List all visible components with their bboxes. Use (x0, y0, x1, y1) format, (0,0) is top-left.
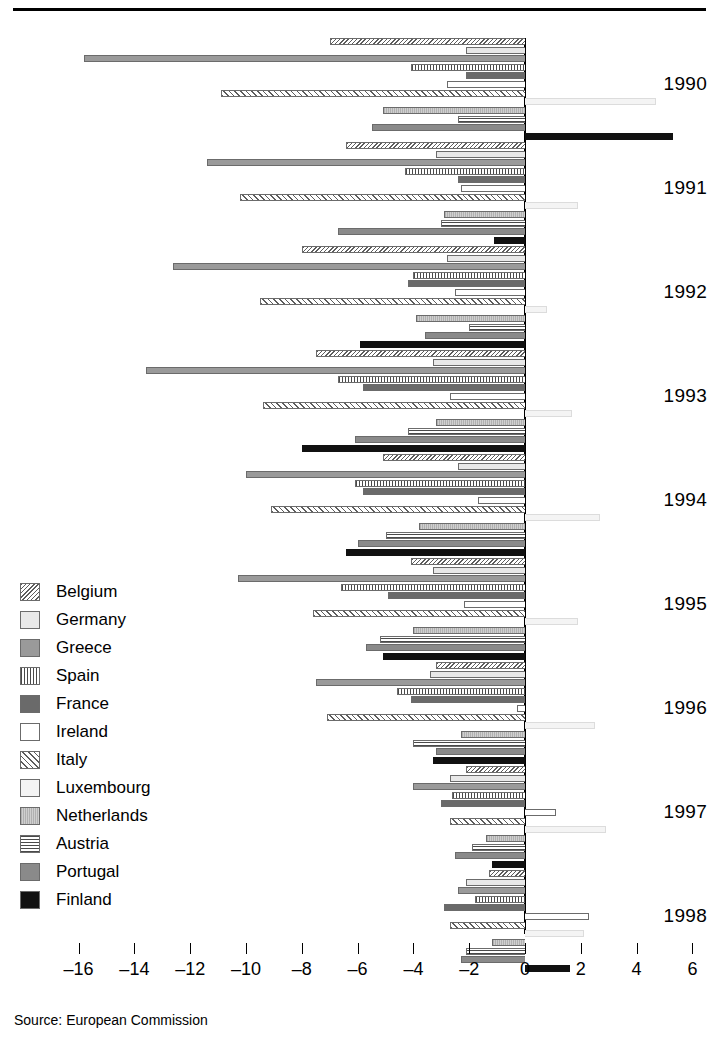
bar-ie-1996 (517, 705, 525, 712)
legend-item-lu[interactable]: Luxembourg (20, 774, 250, 802)
bar-ie-1991 (461, 185, 525, 192)
bar-es-1995 (341, 584, 525, 591)
x-tick--2 (469, 943, 470, 954)
grey-solid-swatch-icon (20, 863, 40, 881)
x-tick-label--8: –8 (292, 959, 312, 980)
bar-de-1991 (436, 151, 525, 158)
source-note: Source: European Commission (14, 1012, 208, 1028)
bar-at-1995 (380, 636, 525, 643)
bar-gr-1992 (173, 263, 525, 270)
x-tick-label--14: –14 (119, 959, 149, 980)
government-deficit-bar-chart: 199019911992199319941995199619971998 Bel… (0, 0, 719, 1048)
legend-item-label: Finland (56, 890, 112, 910)
bar-nl-1995 (413, 627, 525, 634)
bar-fr-1990 (466, 72, 525, 79)
bar-it-1993 (263, 402, 525, 409)
bar-it-1994 (271, 506, 525, 513)
legend-item-at[interactable]: Austria (20, 830, 250, 858)
bar-ie-1993 (450, 393, 525, 400)
bar-es-1994 (355, 480, 525, 487)
bar-es-1998 (475, 896, 525, 903)
bar-de-1993 (433, 359, 525, 366)
legend-item-fr[interactable]: France (20, 690, 250, 718)
bar-lu-1993 (525, 410, 572, 417)
bar-lu-1990 (525, 98, 656, 105)
legend-item-es[interactable]: Spain (20, 662, 250, 690)
x-tick--14 (134, 943, 135, 954)
bar-es-1990 (411, 64, 525, 71)
x-tick--6 (358, 943, 359, 954)
legend-item-label: Spain (56, 666, 99, 686)
legend-item-pt[interactable]: Portugal (20, 858, 250, 886)
bar-gr-1990 (84, 55, 525, 62)
legend-item-label: Portugal (56, 862, 119, 882)
title-rule (13, 8, 706, 11)
bar-pt-1995 (366, 644, 525, 651)
diagonal-hatch-forward-swatch-icon (20, 751, 40, 769)
year-label-1992: 1992 (664, 281, 707, 303)
bar-fr-1994 (363, 488, 525, 495)
legend-item-gr[interactable]: Greece (20, 634, 250, 662)
bar-lu-1995 (525, 618, 578, 625)
bar-fi-1997 (492, 861, 525, 868)
bar-be-1992 (302, 246, 525, 253)
x-tick--16 (79, 943, 80, 954)
dark-grey-solid-swatch-icon (20, 695, 40, 713)
bar-gr-1991 (207, 159, 525, 166)
legend: BelgiumGermanyGreeceSpainFranceIrelandIt… (20, 578, 250, 914)
bar-de-1990 (466, 47, 525, 54)
legend-item-label: Luxembourg (56, 778, 151, 798)
x-tick-label-2: 2 (576, 959, 586, 980)
legend-item-nl[interactable]: Netherlands (20, 802, 250, 830)
bar-lu-1996 (525, 722, 595, 729)
bar-fr-1997 (441, 800, 525, 807)
bar-nl-1996 (461, 731, 525, 738)
bar-at-1997 (472, 844, 525, 851)
x-axis: –16–14–12–10–8–6–4–20246 (0, 943, 719, 993)
bar-fr-1993 (363, 384, 525, 391)
x-tick--10 (246, 943, 247, 954)
bar-pt-1991 (338, 228, 525, 235)
x-tick-2 (581, 943, 582, 954)
bar-ie-1997 (525, 809, 556, 816)
bar-de-1996 (430, 671, 525, 678)
bar-it-1995 (313, 610, 525, 617)
legend-item-label: Germany (56, 610, 126, 630)
bar-it-1997 (450, 818, 525, 825)
horizontal-lines-swatch-icon (20, 835, 40, 853)
bar-es-1991 (405, 168, 525, 175)
x-tick-label--6: –6 (348, 959, 368, 980)
bar-be-1996 (436, 662, 525, 669)
legend-item-it[interactable]: Italy (20, 746, 250, 774)
x-tick--4 (413, 943, 414, 954)
year-label-1996: 1996 (664, 697, 707, 719)
bar-de-1994 (458, 463, 525, 470)
legend-item-be[interactable]: Belgium (20, 578, 250, 606)
bar-be-1991 (346, 142, 525, 149)
x-tick-label--2: –2 (459, 959, 479, 980)
bar-ie-1990 (447, 81, 525, 88)
year-label-1997: 1997 (664, 801, 707, 823)
bar-it-1998 (450, 922, 525, 929)
bar-es-1996 (397, 688, 525, 695)
legend-item-de[interactable]: Germany (20, 606, 250, 634)
bar-be-1990 (330, 38, 525, 45)
bar-gr-1993 (146, 367, 525, 374)
bar-gr-1998 (458, 887, 525, 894)
bar-nl-1994 (419, 523, 525, 530)
bar-nl-1991 (444, 211, 525, 218)
bar-de-1992 (447, 255, 525, 262)
legend-item-label: Belgium (56, 582, 117, 602)
x-tick-label-4: 4 (632, 959, 642, 980)
bar-de-1995 (433, 567, 525, 574)
bar-fr-1995 (388, 592, 525, 599)
bar-pt-1996 (436, 748, 525, 755)
bar-lu-1997 (525, 826, 606, 833)
bar-be-1994 (383, 454, 525, 461)
legend-item-fi[interactable]: Finland (20, 886, 250, 914)
bar-ie-1998 (525, 913, 589, 920)
legend-item-ie[interactable]: Ireland (20, 718, 250, 746)
bar-ie-1992 (455, 289, 525, 296)
year-label-1990: 1990 (664, 73, 707, 95)
bar-at-1990 (458, 116, 525, 123)
